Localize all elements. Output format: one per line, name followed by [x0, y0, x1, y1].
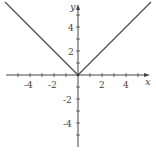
x-tick-label: -4: [24, 80, 33, 90]
x-tick-label: -2: [48, 80, 57, 90]
x-tick-label: 4: [123, 80, 129, 90]
y-axis-label: y: [69, 1, 76, 12]
y-tick-label: 4: [68, 23, 74, 33]
y-tick-label: 2: [68, 47, 74, 57]
graph-svg: -4 -2 2 4 4 2 -2 -4 y x: [0, 0, 156, 163]
x-tick-label: 2: [99, 80, 105, 90]
y-axis-arrow-icon: [76, 4, 80, 10]
origin-point: [77, 74, 80, 77]
y-tick-label: -2: [63, 95, 72, 105]
x-axis-label: x: [145, 76, 151, 87]
y-tick-label: -4: [63, 119, 72, 129]
